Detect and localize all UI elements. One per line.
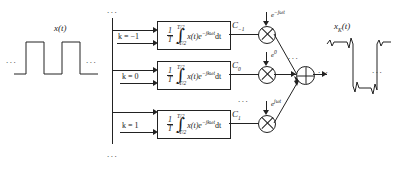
- branch-2-carrier-label: e0: [271, 50, 277, 59]
- branch-middle-ellipsis: ...: [238, 95, 249, 104]
- branch-3-integrand: x(t)e−jkωtdt: [187, 119, 221, 130]
- branch-3-k-label: k = 1: [122, 122, 139, 130]
- branch-2-lower-limit: −T/2: [175, 81, 186, 87]
- branch-1-integral-box: 1 T T/2 ∫ −T/2 x(t)e−jkωtdt: [157, 21, 231, 50]
- branch-3-k-line: [120, 132, 156, 133]
- branch-3-differential: dt: [215, 121, 221, 130]
- bus-bottom-ellipsis: ...: [107, 150, 118, 159]
- branch-2-coefficient-label: C0: [232, 61, 241, 72]
- branch-1-carrier-label: e−jωt: [271, 10, 285, 19]
- branch-1-input-line: [112, 30, 156, 31]
- branch-2-integral-box: 1 T T/2 ∫ −T/2 x(t)e−jkωtdt: [157, 61, 231, 90]
- branch-1-coefficient-sub: −1: [238, 26, 244, 32]
- input-signal-label: x(t): [54, 24, 67, 33]
- branch-2-input-line: [112, 70, 156, 71]
- branch-2-differential: dt: [215, 72, 221, 81]
- branch-1-numerator: 1: [167, 27, 173, 35]
- branch-3-carrier-arrow: [263, 110, 269, 115]
- branch-3-input-line: [112, 112, 156, 113]
- branch-1-integrand-exponent: −jkωt: [202, 30, 215, 36]
- branch-2-fraction: 1 T: [167, 67, 173, 84]
- branch-1-k-line: [117, 43, 156, 44]
- branch-2-carrier-exponent: 0: [274, 49, 277, 55]
- branch-1-integral: T/2 ∫ −T/2: [175, 25, 186, 47]
- branch-3-integrand-exponent: −jkωt: [202, 119, 215, 125]
- branch-1-differential: dt: [215, 32, 221, 41]
- branch-3-fraction: 1 T: [167, 116, 173, 133]
- branch-2-carrier-arrow: [263, 61, 269, 66]
- branch-2-k-label: k = 0: [122, 73, 139, 81]
- branch-3-integral-box: 1 T T/2 ∫ −T/2 x(t)e−jkωtdt: [157, 110, 231, 139]
- branch-3-denominator: T: [167, 124, 173, 133]
- branch-3-coefficient-label: C1: [232, 110, 241, 121]
- branch-1-carrier-arrow: [263, 21, 269, 26]
- branch-1-fraction: 1 T: [167, 27, 173, 44]
- branch-2-k-line: [120, 83, 156, 84]
- branch-1-integrand: x(t)e−jkωtdt: [187, 30, 221, 41]
- branch-2-integrand-exponent: −jkωt: [202, 70, 215, 76]
- summing-ellipsis: ...: [288, 52, 299, 61]
- output-waveform: [327, 36, 393, 106]
- branch-2-denominator: T: [167, 75, 173, 84]
- branch-1-integrand-base: x(t)e: [187, 32, 202, 41]
- branch-3-integral: T/2 ∫ −T/2: [175, 114, 186, 136]
- summing-junction: [296, 66, 315, 85]
- bus-top-ellipsis: ...: [107, 6, 118, 15]
- branch-1-denominator: T: [167, 35, 173, 44]
- branch-3-lower-limit: −T/2: [175, 130, 186, 136]
- branch-3-numerator: 1: [167, 116, 173, 124]
- diagram-canvas: x(t) ... ... ... ... k = −1 1 T T/2 ∫ −T…: [0, 0, 393, 180]
- input-waveform: [14, 36, 124, 96]
- distribution-bus: [112, 18, 113, 144]
- branch-2-integrand-base: x(t)e: [187, 72, 202, 81]
- branch-1-k-label: k = −1: [118, 33, 139, 41]
- branch-2-coefficient-sub: 0: [238, 66, 241, 72]
- branch-3-coefficient-sub: 1: [238, 115, 241, 121]
- branch-3-output-path: [274, 78, 314, 128]
- branch-2-numerator: 1: [167, 67, 173, 75]
- branch-3-integrand-base: x(t)e: [187, 121, 202, 130]
- branch-1-lower-limit: −T/2: [175, 41, 186, 47]
- branch-1-coefficient-label: C−1: [232, 21, 244, 32]
- branch-2-integral: T/2 ∫ −T/2: [175, 65, 186, 87]
- branch-1-carrier-exponent: −jωt: [274, 9, 285, 15]
- output-signal-label: xK(t): [334, 22, 350, 33]
- branch-2-integrand: x(t)e−jkωtdt: [187, 70, 221, 81]
